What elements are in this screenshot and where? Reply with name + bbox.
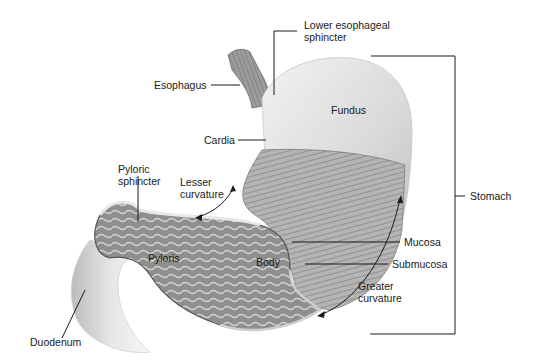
label-greater-curvature: Greater curvature: [358, 280, 402, 304]
label-pyloris: Pyloris: [148, 252, 180, 264]
label-lower-esophageal-sphincter: Lower esophageal sphincter: [304, 19, 390, 43]
lesser-curvature-arrowhead-a: [230, 185, 236, 192]
label-submucosa: Submucosa: [392, 258, 447, 270]
label-fundus: Fundus: [331, 104, 366, 116]
label-duodenum: Duodenum: [30, 336, 81, 348]
label-lesser-curvature: Lesser curvature: [180, 176, 224, 200]
label-esophagus: Esophagus: [154, 79, 207, 91]
label-body: Body: [256, 256, 280, 268]
label-cardia: Cardia: [204, 134, 235, 146]
label-pyloric-sphincter: Pyloric sphincter: [118, 163, 161, 187]
label-stomach: Stomach: [470, 190, 511, 202]
label-mucosa: Mucosa: [404, 236, 441, 248]
stomach-illustration: [0, 0, 539, 362]
